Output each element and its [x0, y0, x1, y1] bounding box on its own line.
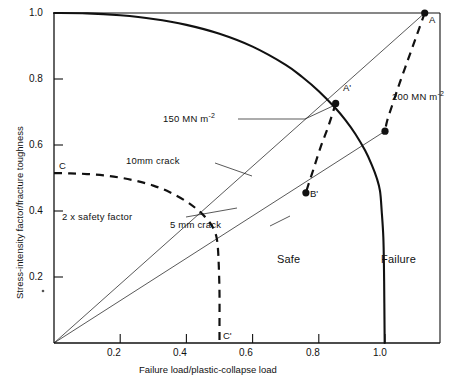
- y-axis-title: Stress-intensity factor/fracture toughne…: [14, 126, 25, 299]
- leader-safety-factor: [186, 208, 237, 217]
- region-label-failure: Failure: [381, 253, 416, 265]
- y-axis-ticks: [54, 13, 63, 277]
- label-150-text: 150 MN m: [163, 113, 208, 124]
- label-200-exponent: -2: [437, 90, 444, 97]
- marker-point-A: [421, 9, 428, 16]
- y-tick-label-2: 0.6: [29, 139, 43, 150]
- marker-point-A-prime: [332, 100, 339, 107]
- data-point-markers: [302, 9, 428, 196]
- leader-10mm: [215, 163, 252, 176]
- region-label-safe: Safe: [277, 253, 300, 265]
- x-axis-title: Failure load/plastic-collapse load: [139, 364, 277, 375]
- point-label-A: A: [429, 14, 435, 25]
- x-tick-label-1: 0.4: [173, 347, 187, 358]
- point-label-C-prime: C': [223, 330, 232, 341]
- leader-5mm: [270, 216, 290, 226]
- point-label-B-prime: B': [310, 188, 318, 199]
- x-tick-label-2: 0.6: [239, 347, 253, 358]
- ink-artifact: [42, 290, 45, 293]
- label-10mm-crack: 10mm crack: [126, 155, 180, 166]
- y-tick-label-4: 1.0: [29, 7, 43, 18]
- x-axis-ticks: [120, 334, 385, 343]
- label-5mm-crack: 5 mm crack: [170, 219, 221, 230]
- label-150-MNm-2: 150 MN m-2: [163, 112, 215, 124]
- two-times-safety-factor-curve: [54, 173, 220, 343]
- point-label-A-prime: A': [343, 82, 351, 93]
- failure-assessment-diagram: [0, 0, 458, 383]
- marker-point-200-lower: [381, 128, 388, 135]
- radial-line-10mm-crack: [54, 13, 425, 343]
- label-200-text: 200 MN m: [392, 91, 437, 102]
- x-tick-label-3: 0.8: [306, 347, 320, 358]
- marker-point-B-prime: [302, 189, 309, 196]
- x-tick-label-4: 1.0: [373, 347, 387, 358]
- plot-frame: [54, 13, 440, 343]
- label-safety-factor: 2 x safety factor: [62, 211, 132, 222]
- y-tick-label-1: 0.4: [29, 205, 43, 216]
- label-150-exponent: -2: [208, 112, 215, 119]
- point-label-C: C: [59, 160, 66, 171]
- x-tick-label-0: 0.2: [107, 347, 121, 358]
- y-tick-label-0: 0.2: [29, 271, 43, 282]
- label-200-MNm-2: 200 MN m-2: [392, 90, 444, 102]
- y-tick-label-3: 0.8: [29, 73, 43, 84]
